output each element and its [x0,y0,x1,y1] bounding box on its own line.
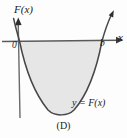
figure-container: F(x) x 0 b y = F(x) (D) [0,0,127,138]
curve-equation-label: y = F(x) [72,98,105,108]
figure-caption: (D) [0,121,127,131]
parabola-plot [0,0,127,138]
parabola-right-arrowhead [109,10,114,17]
y-axis-arrowhead [15,18,22,26]
x-axis-label: x [118,32,123,43]
origin-label: 0 [12,41,17,51]
y-axis-label: F(x) [14,4,33,15]
upper-limit-label-b: b [100,39,105,49]
